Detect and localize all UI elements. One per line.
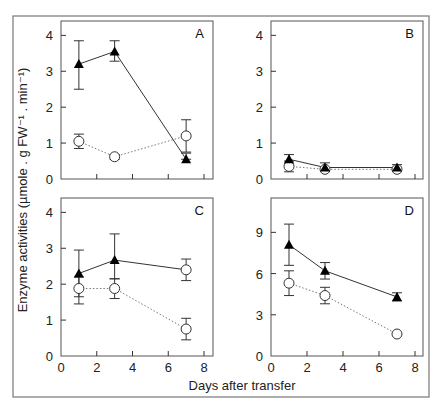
triangle-marker	[110, 47, 120, 56]
panel-c: 0123402468C	[46, 198, 213, 375]
panel-a: 01234A	[46, 21, 213, 187]
plot-frame	[271, 21, 423, 179]
x-tick-label: 0	[57, 360, 64, 375]
y-tick-label: 2	[46, 277, 53, 292]
y-axis-label: Enzyme activities (µmole . g FW⁻¹ . min⁻…	[15, 68, 30, 313]
triangle-marker	[110, 255, 120, 264]
y-tick-label: 3	[256, 64, 263, 79]
y-tick-label: 6	[256, 267, 263, 282]
panel-letter: A	[195, 26, 204, 41]
y-tick-label: 4	[46, 28, 53, 43]
x-tick-label: 4	[129, 360, 136, 375]
svg-text:Enzyme activities (µmole . g F: Enzyme activities (µmole . g FW⁻¹ . min⁻…	[15, 68, 30, 313]
y-tick-label: 4	[256, 28, 263, 43]
triangle-marker	[74, 268, 84, 277]
triangle-marker	[284, 240, 294, 249]
x-tick-label: 2	[93, 360, 100, 375]
circle-marker	[110, 283, 120, 293]
x-tick-label: 8	[200, 360, 207, 375]
circle-marker	[74, 136, 84, 146]
solid-series-line	[79, 260, 186, 273]
circle-marker	[110, 152, 120, 162]
panel-d: 036902468D	[256, 198, 423, 375]
y-tick-label: 3	[256, 308, 263, 323]
x-tick-label: 8	[411, 360, 418, 375]
y-tick-label: 2	[256, 100, 263, 115]
y-tick-label: 0	[46, 349, 53, 364]
y-tick-label: 0	[256, 349, 263, 364]
y-tick-label: 9	[256, 225, 263, 240]
y-tick-label: 0	[256, 172, 263, 187]
y-tick-label: 3	[46, 241, 53, 256]
dotted-series-line	[79, 136, 186, 157]
x-tick-label: 6	[375, 360, 382, 375]
panel-b: 01234B	[256, 21, 423, 187]
figure-border	[13, 16, 429, 397]
y-tick-label: 3	[46, 64, 53, 79]
triangle-marker	[284, 154, 294, 163]
x-axis-label: Days after transfer	[189, 378, 297, 393]
solid-series-line	[79, 52, 186, 160]
circle-marker	[181, 324, 191, 334]
y-tick-label: 1	[46, 136, 53, 151]
y-tick-label: 1	[46, 313, 53, 328]
circle-marker	[74, 283, 84, 293]
circle-marker	[392, 329, 402, 339]
solid-series-line	[289, 245, 397, 297]
x-tick-label: 2	[303, 360, 310, 375]
y-tick-label: 4	[46, 205, 53, 220]
triangle-marker	[74, 59, 84, 68]
dotted-series-line	[79, 288, 186, 329]
solid-series-line	[289, 159, 397, 167]
circle-marker	[181, 265, 191, 275]
figure: Enzyme activities (µmole . g FW⁻¹ . min⁻…	[0, 0, 441, 412]
panel-letter: B	[405, 26, 414, 41]
circle-marker	[320, 291, 330, 301]
y-tick-label: 1	[256, 136, 263, 151]
panel-letter: D	[405, 203, 414, 218]
triangle-marker	[320, 266, 330, 275]
x-tick-label: 0	[267, 360, 274, 375]
x-tick-label: 6	[165, 360, 172, 375]
x-tick-label: 4	[339, 360, 346, 375]
panel-letter: C	[195, 203, 204, 218]
y-tick-label: 2	[46, 100, 53, 115]
circle-marker	[284, 278, 294, 288]
y-tick-label: 0	[46, 172, 53, 187]
circle-marker	[181, 131, 191, 141]
plot-frame	[61, 21, 213, 179]
